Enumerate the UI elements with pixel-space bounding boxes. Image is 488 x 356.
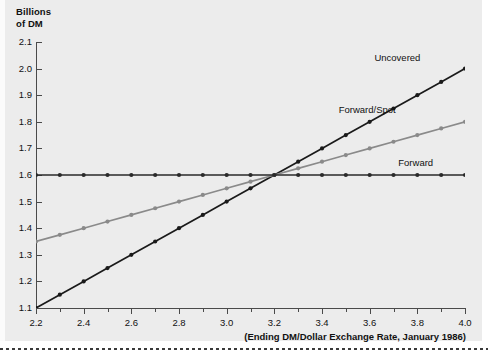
y-tick-label: 1.3: [0, 249, 32, 260]
series-label-forward-spot: Forward/Spot: [339, 104, 396, 115]
x-tick-major: [179, 309, 180, 314]
data-point-marker: [344, 153, 348, 157]
data-point-marker: [296, 166, 300, 170]
data-point-marker: [225, 200, 229, 204]
data-point-marker: [225, 173, 229, 177]
data-point-marker: [391, 140, 395, 144]
data-point-marker: [272, 173, 276, 177]
data-point-marker: [82, 173, 86, 177]
data-point-marker: [177, 226, 181, 230]
data-point-marker: [58, 293, 62, 297]
x-tick-label: 3.8: [399, 317, 435, 328]
data-point-marker: [201, 193, 205, 197]
x-tick-label: 3.0: [209, 317, 245, 328]
data-point-marker: [368, 120, 372, 124]
y-tick-label: 1.6: [0, 169, 32, 180]
data-point-marker: [105, 219, 109, 223]
data-point-marker: [129, 173, 133, 177]
x-tick-minor: [441, 309, 442, 312]
data-point-marker: [415, 173, 419, 177]
x-tick-minor: [108, 309, 109, 312]
data-point-marker: [248, 186, 252, 190]
data-point-marker: [129, 213, 133, 217]
data-point-marker: [248, 173, 252, 177]
data-point-marker: [463, 173, 465, 177]
data-point-marker: [153, 206, 157, 210]
data-point-marker: [105, 173, 109, 177]
x-tick-minor: [155, 309, 156, 312]
x-tick-major: [370, 309, 371, 314]
series-forward-spot: [36, 120, 465, 244]
x-tick-major: [84, 309, 85, 314]
data-point-marker: [320, 146, 324, 150]
data-point-marker: [58, 233, 62, 237]
x-tick-minor: [346, 309, 347, 312]
data-point-marker: [153, 173, 157, 177]
y-tick-label: 2.0: [0, 63, 32, 74]
x-tick-minor: [60, 309, 61, 312]
y-tick-label: 1.5: [0, 196, 32, 207]
data-point-marker: [296, 173, 300, 177]
data-point-marker: [36, 239, 38, 243]
x-tick-major: [465, 309, 466, 314]
data-point-marker: [439, 126, 443, 130]
y-tick-label: 1.9: [0, 89, 32, 100]
data-point-marker: [368, 146, 372, 150]
y-tick-label: 1.7: [0, 142, 32, 153]
data-point-marker: [201, 213, 205, 217]
plot-area: [36, 42, 465, 308]
data-point-marker: [36, 173, 38, 177]
x-tick-major: [131, 309, 132, 314]
y-tick: [37, 308, 42, 309]
series-forward: [36, 173, 465, 177]
x-tick-minor: [203, 309, 204, 312]
data-point-marker: [296, 160, 300, 164]
data-point-marker: [82, 279, 86, 283]
x-axis-caption: (Ending DM/Dollar Exchange Rate, January…: [244, 331, 466, 342]
x-tick-label: 4.0: [447, 317, 483, 328]
x-tick-major: [227, 309, 228, 314]
y-tick-label: 2.1: [0, 36, 32, 47]
data-point-marker: [105, 266, 109, 270]
series-label-uncovered: Uncovered: [374, 52, 420, 63]
data-point-marker: [177, 200, 181, 204]
x-tick-major: [322, 309, 323, 314]
data-point-marker: [439, 173, 443, 177]
x-tick-label: 2.4: [66, 317, 102, 328]
data-point-marker: [368, 173, 372, 177]
x-tick-major: [417, 309, 418, 314]
data-point-marker: [463, 120, 465, 124]
data-point-marker: [415, 133, 419, 137]
x-tick-minor: [394, 309, 395, 312]
chart-figure: Billions of DM 1.11.21.31.41.51.61.71.81…: [0, 0, 488, 356]
y-tick-label: 1.8: [0, 116, 32, 127]
data-point-marker: [344, 173, 348, 177]
data-point-marker: [320, 160, 324, 164]
series-uncovered: [36, 67, 465, 309]
data-point-marker: [153, 239, 157, 243]
data-point-marker: [129, 253, 133, 257]
data-point-marker: [82, 226, 86, 230]
x-tick-minor: [251, 309, 252, 312]
y-tick-label: 1.1: [0, 302, 32, 313]
data-point-marker: [415, 93, 419, 97]
data-point-marker: [344, 133, 348, 137]
data-point-marker: [58, 173, 62, 177]
x-tick-label: 3.4: [304, 317, 340, 328]
y-tick-label: 1.4: [0, 222, 32, 233]
y-axis-title: Billions of DM: [16, 6, 51, 29]
y-tick-label: 1.2: [0, 275, 32, 286]
series-label-forward: Forward: [398, 157, 433, 168]
x-tick-label: 3.6: [352, 317, 388, 328]
data-point-marker: [225, 186, 229, 190]
data-point-marker: [177, 173, 181, 177]
data-point-marker: [248, 180, 252, 184]
x-tick-major: [274, 309, 275, 314]
x-tick-label: 2.2: [18, 317, 54, 328]
data-point-marker: [320, 173, 324, 177]
data-point-marker: [391, 173, 395, 177]
data-point-marker: [201, 173, 205, 177]
x-tick-label: 3.2: [256, 317, 292, 328]
x-tick-major: [36, 309, 37, 314]
dotted-rule-divider: [0, 348, 488, 350]
